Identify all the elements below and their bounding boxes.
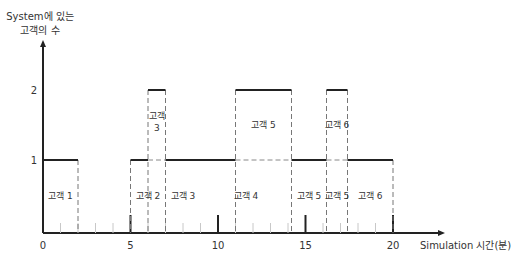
- annotation-label: 고객 5: [251, 120, 276, 130]
- svg-text:3: 3: [154, 123, 160, 133]
- customer-annotations: 고객 1고객 2고객 3고객 4고객 5고객 5고객 6고객3고객 5고객 6: [48, 111, 383, 201]
- annotation-label: 고객 6: [325, 120, 350, 130]
- minor-ticks: [61, 215, 394, 233]
- y-axis-label-line1: System에 있는: [6, 11, 73, 22]
- annotation-label: 고객 5: [325, 191, 350, 201]
- step-chart: 고객 1고객 2고객 3고객 4고객 5고객 5고객 6고객3고객 5고객 6 …: [0, 0, 521, 273]
- annotation-label: 고객 4: [234, 191, 259, 201]
- annotation-label: 고객 6: [358, 191, 383, 201]
- x-tick-label: 15: [299, 240, 312, 251]
- event-lines: [78, 90, 393, 233]
- x-axis-arrow-icon: [438, 230, 445, 236]
- x-tick-label: 5: [127, 240, 133, 251]
- x-tick-label: 0: [40, 240, 46, 251]
- y-axis-arrow-icon: [40, 40, 46, 47]
- annotation-label: 고객 2: [136, 191, 161, 201]
- annotation-label: 고객 3: [171, 191, 196, 201]
- y-tick-label: 2: [31, 85, 37, 96]
- axes: [40, 40, 445, 236]
- x-tick-label: 10: [212, 240, 225, 251]
- annotation-label: 고객: [149, 111, 165, 121]
- annotation-label: 고객 1: [48, 191, 73, 201]
- y-tick-label: 1: [31, 155, 37, 166]
- x-axis-label: Simulation 시간(분): [420, 240, 511, 251]
- annotation-label: 고객 5: [297, 191, 322, 201]
- y-axis-label-line2: 고객의 수: [20, 25, 59, 36]
- x-tick-label: 20: [387, 240, 400, 251]
- tick-labels: 0510152012: [31, 85, 400, 251]
